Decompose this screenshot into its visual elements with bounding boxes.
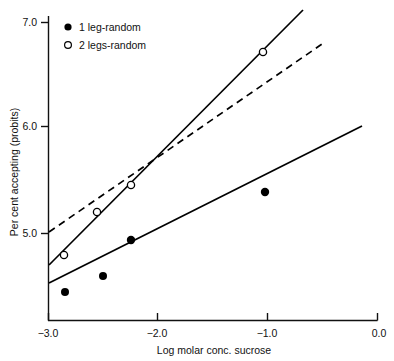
legend-marker-filled-circle-icon (64, 23, 71, 30)
data-point-filled (99, 272, 107, 280)
figure-container: 7.0 6.0 5.0 −3.0 −2.0 −1.0 0.0 Log molar… (0, 0, 394, 361)
data-point-filled (127, 236, 135, 244)
y-tick-label-5: 5.0 (22, 227, 37, 239)
data-point-filled (261, 188, 269, 196)
x-tick-label--2: −2.0 (147, 327, 168, 339)
x-tick-label--1: −1.0 (257, 327, 278, 339)
y-tick-label-6: 6.0 (22, 120, 37, 132)
y-tick-label-7: 7.0 (22, 16, 37, 28)
data-point-filled (61, 288, 69, 296)
data-point-open (93, 208, 100, 215)
x-tick-label--3: −3.0 (38, 327, 59, 339)
legend-label-2-legs-random: 2 legs-random (79, 39, 146, 51)
data-point-open (60, 251, 67, 258)
x-tick-label-0: 0.0 (372, 327, 387, 339)
data-point-open (127, 181, 134, 188)
y-axis-title: Per cent accepting (probits) (8, 108, 20, 236)
chart-background (0, 0, 394, 361)
legend-label-1-leg-random: 1 leg-random (79, 21, 141, 33)
data-point-open (259, 48, 266, 55)
legend-marker-open-circle-icon (65, 42, 72, 49)
probit-scatter-chart: 7.0 6.0 5.0 −3.0 −2.0 −1.0 0.0 Log molar… (0, 0, 394, 361)
x-axis-title: Log molar conc. sucrose (157, 344, 272, 356)
